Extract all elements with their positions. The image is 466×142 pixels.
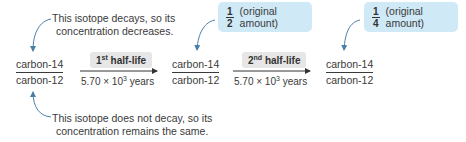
half-fraction: 1 2	[226, 6, 234, 29]
step-2-years: 5.70 × 103 years	[234, 75, 307, 87]
step-2-label: 2nd half-life	[242, 52, 306, 68]
quarter-fraction: 1 4	[372, 6, 380, 29]
ratio-after-first: carbon-14 carbon-12	[172, 58, 219, 87]
ratio-numerator: carbon-14	[16, 58, 63, 73]
bottom-callout-line1: This isotope does not decay, so its	[52, 112, 212, 125]
ratio-numerator: carbon-14	[326, 58, 373, 73]
amount-quarter-box: 1 4 (original amount)	[364, 2, 458, 32]
ratio-denominator: carbon-12	[16, 73, 63, 87]
top-callout-line2: concentration decreases.	[52, 25, 175, 38]
ratio-initial: carbon-14 carbon-12	[16, 58, 63, 87]
ratio-after-second: carbon-14 carbon-12	[326, 58, 373, 87]
amount-half-text: (original amount)	[240, 5, 312, 29]
step-1-label: 1st half-life	[90, 52, 152, 68]
top-callout-line1: This isotope decays, so its	[52, 12, 175, 25]
step-1-years: 5.70 × 103 years	[81, 75, 154, 87]
ratio-numerator: carbon-14	[172, 58, 219, 73]
top-callout: This isotope decays, so its concentratio…	[52, 12, 175, 37]
amount-quarter-text: (original amount)	[386, 5, 458, 29]
amount-half-box: 1 2 (original amount)	[218, 2, 312, 32]
bottom-callout: This isotope does not decay, so its conc…	[52, 112, 212, 137]
ratio-denominator: carbon-12	[172, 73, 219, 87]
bottom-callout-line2: concentration remains the same.	[52, 125, 212, 138]
ratio-denominator: carbon-12	[326, 73, 373, 87]
